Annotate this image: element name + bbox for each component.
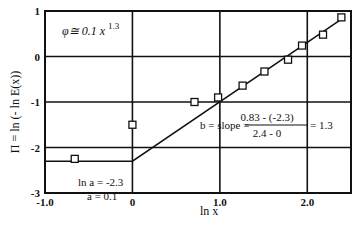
y-tick-label: 1 — [35, 5, 41, 17]
square-marker-icon — [338, 14, 345, 21]
square-marker-icon — [239, 82, 246, 89]
slope-result: = 1.3 — [310, 119, 333, 131]
x-tick-label: 0 — [130, 196, 136, 208]
square-marker-icon — [71, 155, 78, 162]
x-axis-label: ln x — [200, 204, 218, 218]
data-points — [71, 14, 345, 163]
x-tick-labels: -1.001.02.0 — [36, 196, 314, 208]
chart: -1.001.02.0 10-1-2-3 ln x Π = ln (- ln E… — [0, 0, 364, 226]
square-marker-icon — [261, 68, 268, 75]
equation-exponent: 1.3 — [108, 21, 120, 31]
a-value-label: a = 0.1 — [87, 190, 117, 202]
equation-annotation: φ≅ 0.1 x 1.3 — [62, 21, 120, 38]
svg-text:φ≅ 0.1 x 1.3: φ≅ 0.1 x 1.3 — [62, 21, 120, 38]
square-marker-icon — [320, 31, 327, 38]
y-tick-label: -3 — [31, 187, 41, 199]
slope-numerator: 0.83 - (-2.3) — [240, 111, 293, 124]
y-axis-label: Π = ln (- ln E(x)) — [8, 71, 22, 153]
y-tick-label: -2 — [31, 142, 41, 154]
ln-a-label: ln a = -2.3 — [78, 176, 124, 188]
y-tick-labels: 10-1-2-3 — [31, 5, 41, 199]
slope-denominator: 2.4 - 0 — [253, 127, 282, 139]
x-tick-label: 2.0 — [300, 196, 314, 208]
square-marker-icon — [191, 99, 198, 106]
square-marker-icon — [285, 56, 292, 63]
square-marker-icon — [129, 121, 136, 128]
intercept-annotation: ln a = -2.3 a = 0.1 — [78, 176, 124, 202]
fit-polyline — [45, 19, 342, 161]
fit-line — [45, 19, 342, 161]
square-marker-icon — [299, 42, 306, 49]
y-tick-label: -1 — [31, 96, 40, 108]
square-marker-icon — [215, 94, 222, 101]
equation-text: φ≅ 0.1 x — [62, 24, 108, 38]
y-tick-label: 0 — [35, 51, 41, 63]
